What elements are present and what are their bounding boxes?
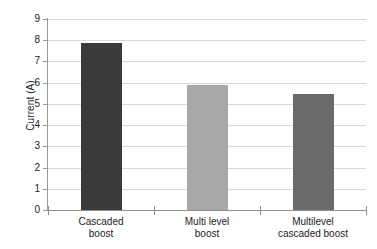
x-axis-category-label: Multilevelcascaded boost xyxy=(260,216,366,240)
category-separator xyxy=(48,206,49,215)
category-separator xyxy=(260,206,261,215)
y-axis-tick-label: 4 xyxy=(14,120,40,130)
y-axis-tick-label: 8 xyxy=(14,35,40,45)
category-label-line: cascaded boost xyxy=(260,228,366,240)
category-label-line: boost xyxy=(154,228,260,240)
bar-chart: Current (A) 0123456789 CascadedboostMult… xyxy=(0,0,377,249)
bar xyxy=(187,85,228,210)
y-axis-tick-label: 1 xyxy=(14,184,40,194)
x-axis-category-label: Multi levelboost xyxy=(154,216,260,240)
category-label-line: Multi level xyxy=(185,216,229,227)
bar xyxy=(81,43,122,210)
category-label-line: Multilevel xyxy=(292,216,334,227)
bar xyxy=(293,94,334,210)
x-axis-line xyxy=(47,210,366,211)
y-axis-tick-label: 2 xyxy=(14,163,40,173)
category-label-line: boost xyxy=(48,228,154,240)
y-axis-line xyxy=(47,18,48,211)
x-axis-category-label: Cascadedboost xyxy=(48,216,154,240)
y-axis-tick-label: 7 xyxy=(14,56,40,66)
y-axis-tick-label: 6 xyxy=(14,78,40,88)
gridline xyxy=(48,19,366,20)
plot-area xyxy=(48,19,366,210)
category-separator xyxy=(366,206,367,215)
y-axis-tick-label: 9 xyxy=(14,14,40,24)
y-axis-tick-label: 0 xyxy=(14,205,40,215)
y-axis-tick-label: 3 xyxy=(14,141,40,151)
category-label-line: Cascaded xyxy=(78,216,123,227)
category-separator xyxy=(154,206,155,215)
y-axis-tick-label: 5 xyxy=(14,99,40,109)
gridline xyxy=(48,40,366,41)
